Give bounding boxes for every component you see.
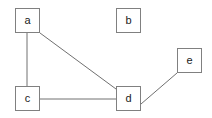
graph-node-label-b: b [125, 15, 131, 26]
graph-diagram-canvas: a b c d e [0, 0, 212, 118]
graph-node-label-c: c [25, 93, 31, 104]
graph-node-b[interactable]: b [116, 8, 141, 33]
graph-node-d[interactable]: d [116, 86, 141, 111]
graph-edge-d-e [141, 73, 177, 104]
graph-node-label-e: e [186, 55, 192, 66]
graph-node-label-d: d [125, 93, 131, 104]
graph-node-label-a: a [24, 15, 30, 26]
graph-node-c[interactable]: c [15, 86, 40, 111]
graph-node-e[interactable]: e [177, 48, 202, 73]
graph-edge-a-d [40, 33, 116, 89]
edges-group [27, 33, 177, 104]
graph-node-a[interactable]: a [15, 8, 40, 33]
